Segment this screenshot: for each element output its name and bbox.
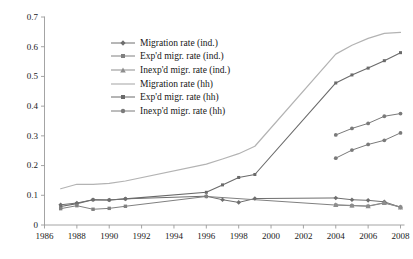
- data-point: [205, 195, 208, 198]
- x-tick-label: 2008: [383, 231, 413, 241]
- data-point: [333, 196, 338, 201]
- data-point: [383, 59, 386, 62]
- x-tick-label: 2000: [253, 231, 289, 241]
- data-point: [366, 143, 370, 147]
- data-point: [334, 156, 338, 160]
- legend-item: Exp'd migr. rate (ind.): [110, 50, 260, 64]
- data-point: [350, 148, 354, 152]
- x-tick-label: 1988: [59, 231, 95, 241]
- data-point: [59, 207, 62, 210]
- data-point: [91, 197, 96, 202]
- y-tick-marks: [41, 17, 45, 225]
- y-tick-label: 0.1: [0, 190, 38, 200]
- data-point: [366, 198, 371, 203]
- y-tick-label: 0.6: [0, 42, 38, 52]
- data-point: [367, 67, 370, 70]
- data-point: [350, 197, 355, 202]
- data-point: [123, 197, 128, 202]
- data-point: [75, 204, 78, 207]
- data-point: [91, 208, 94, 211]
- data-point: [382, 138, 386, 142]
- data-point: [350, 73, 353, 76]
- data-point: [399, 112, 403, 116]
- legend-label: Inexp'd migr. rate (hh): [140, 105, 225, 117]
- y-tick-label: 0.3: [0, 131, 38, 141]
- x-tick-marks: [45, 225, 401, 229]
- data-point: [366, 121, 370, 125]
- legend-label: Inexp'd migr. rate (ind.): [140, 64, 230, 76]
- legend-label: Exp'd migr. rate (ind.): [140, 50, 224, 62]
- legend-marker-icon: [110, 91, 136, 103]
- x-tick-label: 1996: [188, 231, 224, 241]
- data-point: [399, 51, 402, 54]
- x-tick-label: 1992: [124, 231, 160, 241]
- x-tick-label: 1990: [91, 231, 127, 241]
- y-tick-label: 0.5: [0, 71, 38, 81]
- data-point: [124, 205, 127, 208]
- data-point: [334, 133, 338, 137]
- x-tick-label: 1998: [221, 231, 257, 241]
- legend-item: Inexp'd migr. rate (ind.): [110, 63, 260, 77]
- x-tick-label: 2004: [318, 231, 354, 241]
- legend-label: Exp'd migr. rate (hh): [140, 91, 219, 103]
- x-tick-label: 1994: [156, 231, 192, 241]
- data-point: [350, 127, 354, 131]
- legend-marker-icon: [110, 78, 136, 90]
- data-point: [221, 183, 224, 186]
- data-point: [253, 173, 256, 176]
- data-point: [237, 176, 240, 179]
- legend-marker-icon: [110, 37, 136, 49]
- data-point: [107, 198, 112, 203]
- legend-item: Migration rate (ind.): [110, 36, 260, 50]
- data-point: [382, 114, 386, 118]
- chart-container: 00.10.20.30.40.50.60.7 19861988199019921…: [0, 0, 413, 259]
- y-tick-label: 0: [0, 220, 38, 230]
- legend-label: Migration rate (ind.): [140, 37, 218, 49]
- data-point: [399, 131, 403, 135]
- y-tick-label: 0.4: [0, 101, 38, 111]
- y-tick-label: 0.2: [0, 160, 38, 170]
- legend-label: Migration rate (hh): [140, 78, 213, 90]
- x-tick-label: 2006: [350, 231, 386, 241]
- legend-marker-icon: [110, 64, 136, 76]
- legend-item: Inexp'd migr. rate (hh): [110, 104, 260, 118]
- x-tick-label: 2002: [285, 231, 321, 241]
- legend-item: Exp'd migr. rate (hh): [110, 90, 260, 104]
- y-tick-label: 0.7: [0, 12, 38, 22]
- legend-marker-icon: [110, 50, 136, 62]
- data-point: [334, 81, 337, 84]
- data-point: [205, 191, 208, 194]
- x-tick-label: 1986: [27, 231, 63, 241]
- data-point: [108, 207, 111, 210]
- legend-marker-icon: [110, 105, 136, 117]
- data-point: [236, 200, 241, 205]
- chart-legend: Migration rate (ind.)Exp'd migr. rate (i…: [110, 36, 260, 118]
- legend-item: Migration rate (hh): [110, 77, 260, 91]
